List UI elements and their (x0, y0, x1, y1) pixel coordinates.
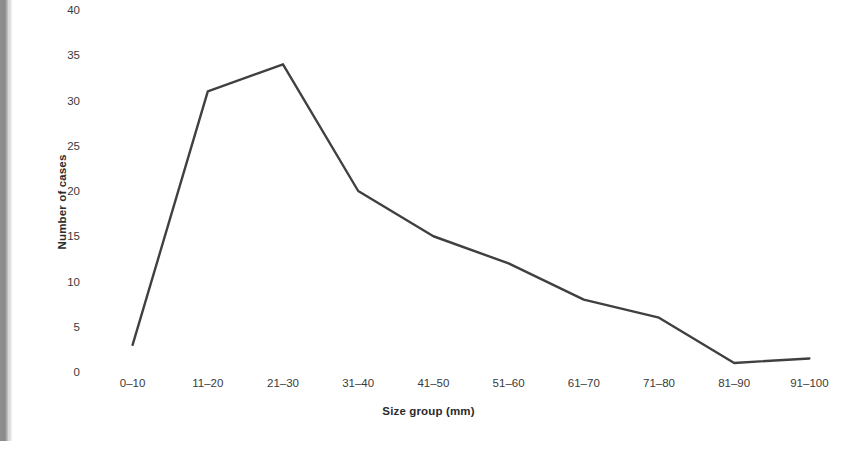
y-axis-tick-label: 5 (46, 321, 80, 333)
series-polyline-number-of-cases (133, 64, 810, 363)
line-chart-figure: Number of cases 0510152025303540 0–1011–… (0, 0, 857, 455)
y-axis-tick-label: 15 (46, 230, 80, 242)
data-series-line (95, 10, 847, 372)
plot-area (95, 10, 847, 372)
x-axis-title: Size group (mm) (0, 405, 857, 417)
y-axis-tick-label: 40 (46, 4, 80, 16)
y-axis-tick-label: 25 (46, 140, 80, 152)
y-axis-tick-label: 20 (46, 185, 80, 197)
x-axis-tick-label: 91–100 (763, 377, 855, 389)
y-axis-tick-label: 0 (46, 366, 80, 378)
y-axis-tick-label: 30 (46, 95, 80, 107)
x-axis-tick-labels: 0–1011–2021–3031–4041–5051–6061–7071–808… (95, 377, 847, 397)
y-axis-tick-label: 10 (46, 276, 80, 288)
y-axis-tick-labels: 0510152025303540 (44, 0, 80, 455)
y-axis-tick-label: 35 (46, 49, 80, 61)
